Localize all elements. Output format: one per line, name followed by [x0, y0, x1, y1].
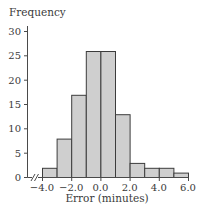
- y-tick-label: 10: [8, 123, 21, 134]
- axis-break-icon: [31, 174, 39, 181]
- y-tick-label: 25: [8, 50, 21, 61]
- histogram-bar: [72, 95, 87, 177]
- y-tick-label: 5: [15, 148, 21, 159]
- x-axis-label: Error (minutes): [65, 192, 148, 204]
- y-axis-label: Frequency: [9, 6, 66, 18]
- histogram-bar: [116, 115, 131, 178]
- y-tick-label: 15: [8, 99, 21, 110]
- x-tick-label: −4.0: [30, 182, 54, 193]
- histogram-bar: [101, 52, 116, 178]
- histogram-bar: [130, 163, 145, 177]
- histogram-bar: [86, 52, 101, 178]
- y-tick-label: 30: [8, 26, 21, 37]
- y-tick-label: 0: [15, 172, 21, 183]
- y-tick-label: 20: [8, 75, 21, 86]
- x-axis-ticks: −4.0−2.00.02.04.06.0: [30, 178, 196, 194]
- histogram-bar: [159, 168, 174, 177]
- histogram-bar: [145, 168, 160, 177]
- histogram-bar: [174, 173, 189, 177]
- histogram-bar: [43, 168, 58, 177]
- histogram-chart: Frequency 051015202530 −4.0−2.00.02.04.0…: [0, 0, 202, 208]
- histogram-bar: [57, 139, 72, 177]
- y-axis-ticks: 051015202530: [8, 26, 27, 183]
- histogram-bars: [43, 52, 189, 178]
- x-tick-label: 6.0: [180, 182, 196, 193]
- x-tick-label: 4.0: [151, 182, 167, 193]
